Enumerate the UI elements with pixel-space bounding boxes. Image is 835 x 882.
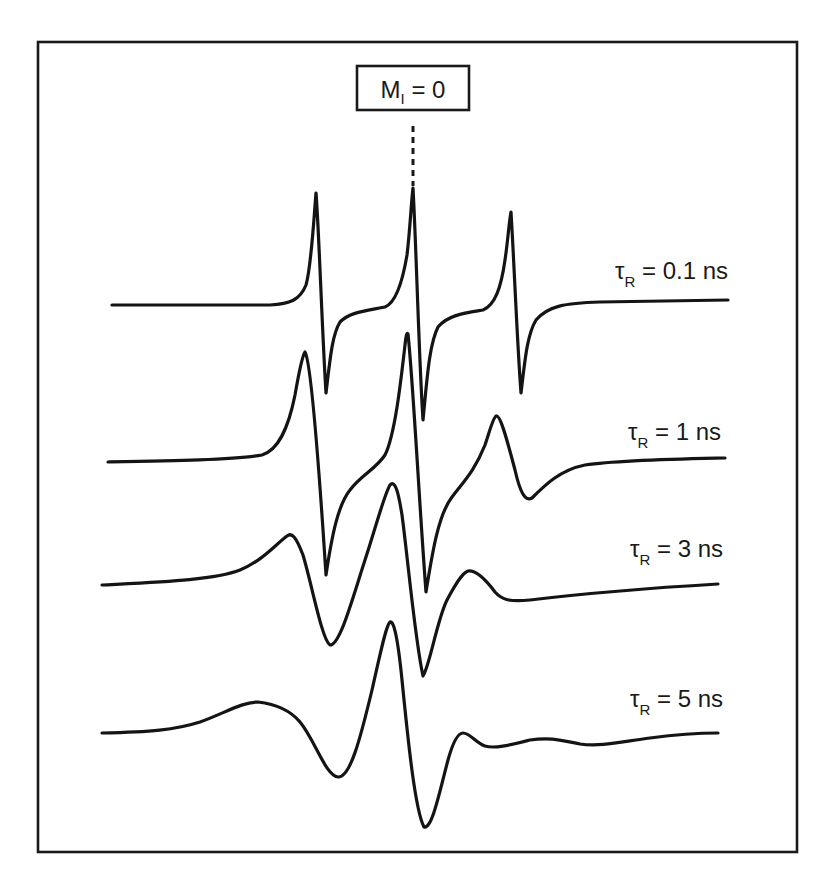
label-tau-3ns: τR = 3 ns <box>630 535 723 568</box>
epr-spectra-figure: MI = 0 τR = 0.1 ns τR = 1 ns τR = 3 ns τ… <box>0 0 835 882</box>
mi-label-rest: = 0 <box>405 76 446 103</box>
label-tau-1ns: τR = 1 ns <box>628 418 721 451</box>
svg-text:MI = 0: MI = 0 <box>381 76 446 107</box>
label-tau-5ns: τR = 5 ns <box>630 685 723 718</box>
label-tau-0-1ns: τR = 0.1 ns <box>615 257 728 290</box>
trace-tau-0-1ns <box>112 188 728 420</box>
trace-tau-3ns <box>102 484 718 676</box>
mi-zero-label: MI = 0 <box>357 66 469 110</box>
mi-label-main: M <box>381 76 401 103</box>
trace-tau-5ns <box>102 622 718 827</box>
